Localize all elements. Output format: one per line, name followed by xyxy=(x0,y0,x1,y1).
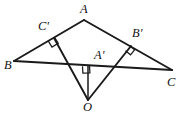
label-point-B: B xyxy=(4,59,12,72)
segment-BC xyxy=(14,61,172,70)
label-point-C: C xyxy=(167,76,175,89)
label-point-A: A xyxy=(80,3,88,16)
right-angle-mark-A-prime xyxy=(83,66,90,73)
segment-AC xyxy=(84,20,172,70)
label-point-C-prime: C' xyxy=(38,20,49,33)
label-point-A-prime: A' xyxy=(94,49,104,62)
label-point-O: O xyxy=(83,101,92,114)
label-point-B-prime: B' xyxy=(132,27,142,40)
geometry-figure: A B C O A' B' C' xyxy=(0,0,183,117)
